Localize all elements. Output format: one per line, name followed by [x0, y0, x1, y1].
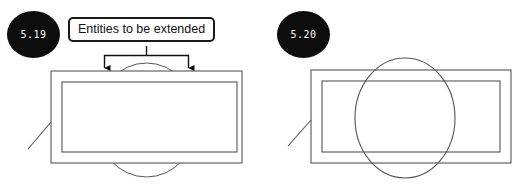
callout-label: Entities to be extended [68, 17, 215, 42]
inner-rectangle [62, 82, 237, 152]
circle-bottom-arc [96, 63, 198, 177]
extended-circle [355, 58, 455, 178]
outer-rectangle [311, 70, 511, 163]
outer-rectangle [51, 71, 242, 163]
leader-line [28, 122, 51, 149]
circle-top-arc [96, 63, 198, 177]
figure-5-20-geometry [288, 58, 511, 178]
inner-rectangle [322, 81, 500, 152]
figure-5-19-geometry [28, 46, 242, 177]
figure-number-badge-5-20: 5.20 [277, 11, 330, 58]
figure-number-badge-5-19: 5.19 [7, 11, 60, 58]
callout-connector [104, 46, 189, 68]
leader-line [288, 120, 311, 146]
figure-canvas: 5.19 5.20 Entities to be extended [0, 0, 517, 190]
